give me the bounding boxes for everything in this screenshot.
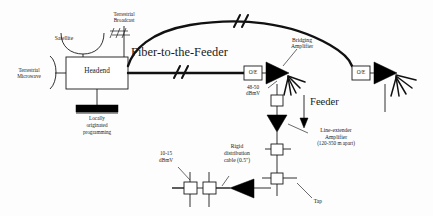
label-rigid-cable-line3: cable (0.5")	[208, 157, 266, 163]
feeder-vertical-left	[262, 84, 297, 196]
yagi-antenna-icon	[110, 26, 130, 57]
label-signal-level-48-50-line2: dBmV	[238, 91, 268, 97]
bridging-amplifier-right	[370, 62, 416, 112]
label-oe-right: O/E	[352, 69, 370, 75]
label-oe-left: O/E	[244, 69, 262, 75]
label-locally-originated-line3: programming	[67, 130, 127, 136]
label-line-extender-line1: Line-extender	[305, 127, 367, 133]
label-terrestrial-broadcast-line2: Broadcast	[100, 18, 148, 24]
label-locally-originated-line1: Locally	[67, 116, 127, 122]
label-rigid-cable-line2: distribution	[208, 150, 266, 156]
label-terrestrial-microwave-line2: Microwave	[8, 74, 50, 80]
label-bridging-amplifier-line2: Amplifier	[279, 43, 325, 49]
label-feeder: Feeder	[310, 96, 360, 107]
label-signal-level-10-15-line1: 10-15	[150, 151, 182, 157]
label-rigid-cable-line1: Rigid	[208, 143, 266, 149]
label-tap: Tap	[304, 198, 332, 204]
diagram-canvas: .ln { stroke:#1a1a1a; stroke-width:0.9; …	[0, 0, 433, 216]
label-fiber-to-the-feeder: Fiber-to-the-Feeder	[131, 46, 271, 59]
bottom-distribution-line	[172, 172, 271, 207]
bridging-amplifier-left	[262, 62, 305, 95]
diagram-graphics: .ln { stroke:#1a1a1a; stroke-width:0.9; …	[0, 0, 433, 216]
fiber-trunk-straight	[128, 66, 244, 78]
label-satellite: Satellite	[44, 35, 84, 41]
label-headend: Headend	[66, 68, 128, 76]
label-line-extender-spacing: (120-350 m apart)	[302, 141, 370, 147]
label-signal-level-10-15-line2: dBmV	[150, 158, 182, 164]
microwave-horn-icon	[50, 56, 66, 89]
locally-originated-source-icon	[76, 89, 118, 113]
feeder-direction-arrow	[300, 95, 308, 128]
label-locally-originated-line2: originated	[67, 123, 127, 129]
